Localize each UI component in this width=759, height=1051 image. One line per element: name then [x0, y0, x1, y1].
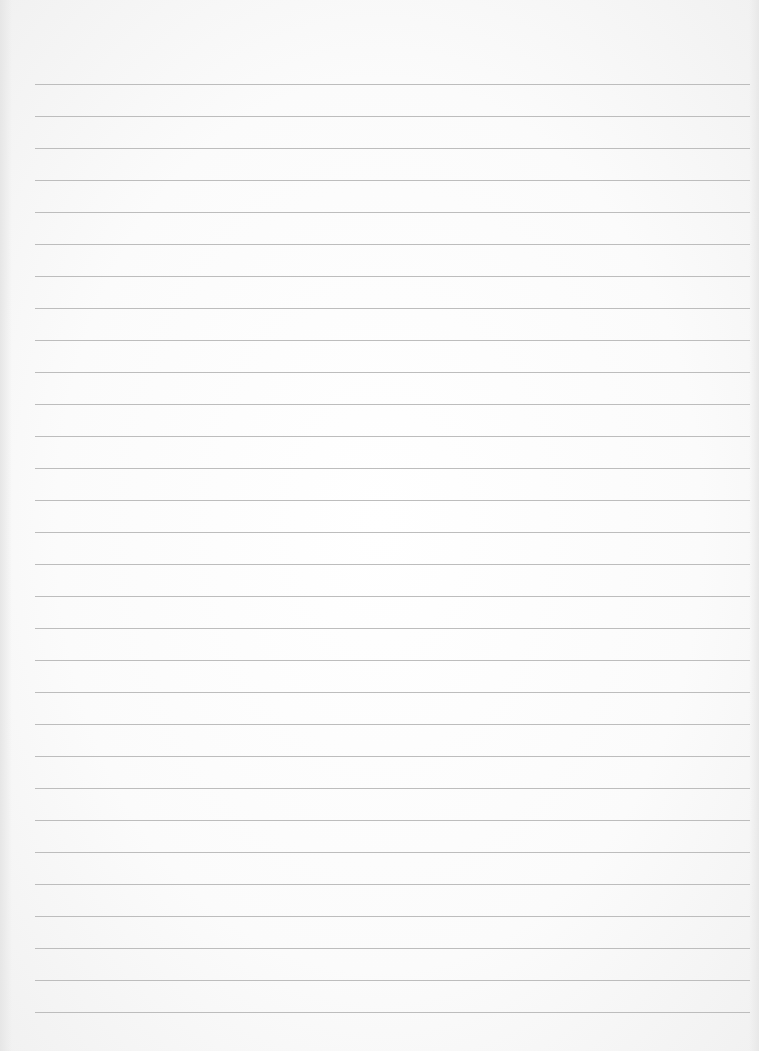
ruled-line	[35, 692, 750, 693]
ruled-line	[35, 116, 750, 117]
ruled-line	[35, 660, 750, 661]
ruled-line	[35, 756, 750, 757]
ruled-line	[35, 148, 750, 149]
ruled-line	[35, 852, 750, 853]
ruled-line	[35, 244, 750, 245]
ruled-line	[35, 916, 750, 917]
lined-paper-sheet	[0, 0, 759, 1051]
ruled-line	[35, 276, 750, 277]
ruled-line	[35, 436, 750, 437]
ruled-line	[35, 212, 750, 213]
ruled-line	[35, 948, 750, 949]
ruled-line	[35, 372, 750, 373]
ruled-line	[35, 1012, 750, 1013]
ruled-line	[35, 404, 750, 405]
ruled-line	[35, 596, 750, 597]
ruled-line	[35, 564, 750, 565]
ruled-line	[35, 884, 750, 885]
ruled-line	[35, 980, 750, 981]
ruled-line	[35, 500, 750, 501]
ruled-line	[35, 180, 750, 181]
ruled-line	[35, 532, 750, 533]
ruled-line	[35, 308, 750, 309]
paper-right-edge-shadow	[749, 0, 759, 1051]
ruled-line	[35, 468, 750, 469]
ruled-line	[35, 340, 750, 341]
ruled-line	[35, 788, 750, 789]
ruled-line	[35, 820, 750, 821]
ruled-line	[35, 724, 750, 725]
ruled-line	[35, 628, 750, 629]
ruled-line	[35, 84, 750, 85]
paper-left-edge-shadow	[0, 0, 12, 1051]
